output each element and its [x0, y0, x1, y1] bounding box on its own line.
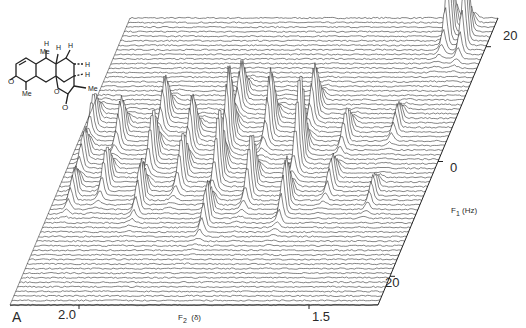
spectrum-trace: [100, 75, 468, 91]
spectrum-trace: [20, 282, 388, 283]
spectrum-trace: [105, 75, 473, 78]
spectrum-trace: [42, 203, 410, 228]
spectrum-trace: [121, 0, 489, 42]
svg-text:Me: Me: [22, 90, 32, 97]
svg-text:H: H: [85, 71, 90, 78]
spectrum-trace: [126, 0, 494, 28]
spectrum-trace: [94, 60, 462, 105]
x-tick-label-1.5: 1.5: [312, 310, 330, 323]
svg-text:H: H: [44, 40, 49, 47]
svg-text:O: O: [54, 88, 60, 95]
x-tick-label-2.0: 2.0: [58, 308, 76, 321]
spectrum-trace: [21, 277, 389, 278]
y-axis-label: F1 (Hz): [451, 204, 477, 220]
panel-label: A: [12, 311, 21, 324]
spectrum-trace: [31, 254, 399, 256]
svg-text:H: H: [85, 61, 90, 68]
spectrum-trace: [130, 4, 498, 19]
spectrum-trace: [33, 249, 401, 251]
spectrum-trace: [107, 71, 475, 74]
svg-text:O: O: [62, 103, 68, 112]
spectrum-trace: [35, 244, 403, 247]
svg-text:H: H: [68, 42, 73, 49]
svg-text:H: H: [56, 44, 61, 51]
spectrum-trace: [41, 218, 409, 233]
x-axis-label: F2 (δ): [178, 311, 201, 327]
spectrum-trace: [14, 295, 382, 296]
svg-text:O: O: [8, 77, 14, 86]
y-tick-label-neg20: 20: [503, 29, 517, 42]
spectrum-trace: [115, 32, 483, 55]
y-tick-label-0: 0: [450, 161, 457, 174]
molecule-structure-icon: O Me Me O O Me H H H H H: [8, 32, 128, 112]
spectrum-trace: [101, 79, 469, 88]
y-tick-label-20: 20: [385, 276, 399, 289]
svg-text:Me: Me: [88, 85, 98, 92]
spectrum-trace: [103, 78, 471, 83]
spectrum-trace: [128, 0, 496, 23]
spectrum-trace: [29, 259, 397, 260]
spectrum-trace: [39, 229, 407, 237]
svg-text:Me: Me: [40, 48, 50, 55]
